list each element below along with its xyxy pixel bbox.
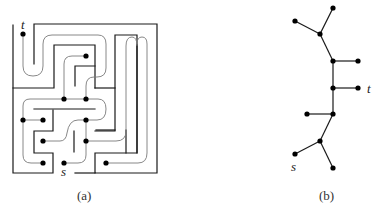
figure: t s (a) <box>0 0 379 211</box>
tree-node-s <box>292 151 297 156</box>
tree-node <box>355 58 360 63</box>
maze-node <box>103 160 108 165</box>
maze-node <box>83 117 88 122</box>
maze-label-s: s <box>61 164 66 179</box>
maze-panel: t s (a) <box>13 17 157 203</box>
maze-node <box>83 138 88 143</box>
maze-node <box>40 160 45 165</box>
tree-node <box>317 31 322 36</box>
tree-panel: t s (b) <box>291 5 371 203</box>
tree-node <box>330 111 335 116</box>
tree-label-s: s <box>291 159 296 174</box>
maze-label-t: t <box>21 17 25 32</box>
tree-node <box>330 85 335 90</box>
maze-node <box>61 96 66 101</box>
caption-b: (b) <box>319 188 334 203</box>
maze-node <box>83 53 88 58</box>
tree-node <box>304 111 309 116</box>
caption-a: (a) <box>77 188 91 203</box>
maze-node <box>40 138 45 143</box>
tree-label-t: t <box>367 81 371 96</box>
tree-node <box>317 138 322 143</box>
tree-node <box>330 5 335 10</box>
maze-node <box>83 96 88 101</box>
maze-node <box>20 117 25 122</box>
tree-edges <box>295 8 358 168</box>
tree-node <box>330 58 335 63</box>
maze-node-t <box>20 31 25 36</box>
tree-node <box>292 18 297 23</box>
tree-node-t <box>355 85 360 90</box>
maze-node <box>40 117 45 122</box>
tree-node <box>330 165 335 170</box>
